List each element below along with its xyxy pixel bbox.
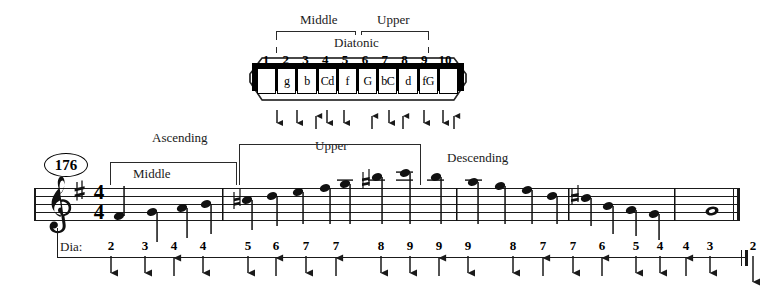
harmonica-cell xyxy=(257,68,276,94)
harmonica-cell: b xyxy=(297,68,316,94)
harmonica-hole-numbers: 1 2 3 4 5 6 7 8 9 10 xyxy=(256,52,456,68)
harmonica-cell: G xyxy=(358,68,377,94)
hole-number: 7 xyxy=(375,52,395,68)
harmonica-breath-arrows xyxy=(248,108,468,132)
hole-number: 5 xyxy=(335,52,355,68)
staff-final-barline-thin xyxy=(733,188,734,221)
hole-number: 9 xyxy=(414,52,434,68)
harmonica-cell: fG xyxy=(419,68,438,94)
harmonica-cell: g xyxy=(277,68,296,94)
hole-number: 6 xyxy=(355,52,375,68)
harmonica-cells: g b Cd f G bC d fG xyxy=(257,68,458,92)
staff-final-barline-thick xyxy=(737,188,740,221)
bracket-label-upper-harmonica: Upper xyxy=(377,12,410,28)
harmonica-diagram: Middle Upper Diatonic 1 2 3 4 5 6 7 8 9 … xyxy=(0,0,772,130)
harmonica-cell: bC xyxy=(378,68,397,94)
hole-number: 4 xyxy=(315,52,335,68)
harmonica-cell: d xyxy=(398,68,417,94)
figure-canvas: Middle Upper Diatonic 1 2 3 4 5 6 7 8 9 … xyxy=(0,0,772,301)
music-score: Ascending Middle Upper Descending 176 xyxy=(0,130,772,301)
hole-number: 8 xyxy=(395,52,415,68)
score-breath-arrows xyxy=(0,252,772,296)
harmonica-cell: Cd xyxy=(318,68,337,94)
hole-number: 2 xyxy=(276,52,296,68)
bracket-label-middle-harmonica: Middle xyxy=(300,12,338,28)
hole-number: 3 xyxy=(296,52,316,68)
hole-number: 10 xyxy=(434,52,456,68)
harmonica-cell xyxy=(439,68,458,94)
hole-number: 1 xyxy=(256,52,276,68)
harmonica-cell: f xyxy=(338,68,357,94)
